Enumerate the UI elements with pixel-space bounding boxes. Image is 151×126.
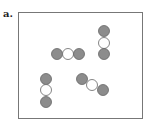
outer-atom-icon (74, 49, 85, 60)
outer-atom-icon (52, 49, 63, 60)
center-atom-icon (41, 85, 52, 96)
molecule-diagonal (77, 74, 109, 96)
molecule-horizontal (52, 49, 85, 60)
molecule-vertical-bottom-left (41, 74, 52, 108)
outer-atom-icon (77, 74, 88, 85)
center-atom-icon (99, 38, 110, 49)
outer-atom-icon (99, 49, 110, 60)
molecule-vertical-top-right (99, 26, 110, 60)
outer-atom-icon (99, 26, 110, 37)
outer-atom-icon (41, 74, 52, 85)
outer-atom-icon (98, 85, 109, 96)
center-atom-icon (87, 80, 98, 91)
outer-atom-icon (41, 97, 52, 108)
molecules-canvas (0, 0, 151, 126)
center-atom-icon (63, 49, 74, 60)
